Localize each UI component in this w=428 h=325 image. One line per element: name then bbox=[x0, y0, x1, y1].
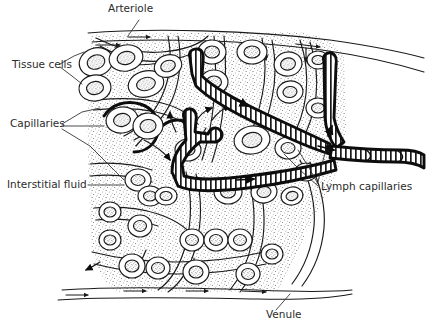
label-lymph-capillaries: Lymph capillaries bbox=[321, 180, 412, 192]
label-arteriole: Arteriole bbox=[108, 2, 153, 14]
label-venule: Venule bbox=[266, 308, 302, 320]
label-tissue-cells: Tissue cells bbox=[11, 58, 72, 70]
tissue-lymphatic-diagram: Arteriole Tissue cells Capillaries Inter… bbox=[0, 0, 428, 325]
label-capillaries: Capillaries bbox=[10, 117, 65, 129]
diagram-canvas: Arteriole Tissue cells Capillaries Inter… bbox=[0, 0, 428, 325]
label-interstitial-fluid: Interstitial fluid bbox=[7, 178, 87, 190]
